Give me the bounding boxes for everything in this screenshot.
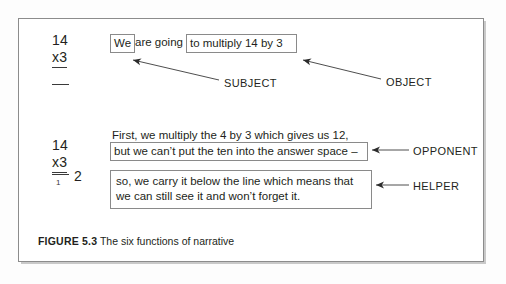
helper-line-1: so, we carry it below the line which mea… [116, 174, 366, 189]
sum-bottom-answer: 2 [74, 169, 82, 183]
label-object: OBJECT [386, 76, 432, 89]
linking-clause: are going [133, 34, 185, 51]
object-clause-box: to multiply 14 by 3 [186, 34, 297, 53]
sum-bottom-answer-rule [52, 174, 69, 175]
sum-top-multiplier: x3 [52, 49, 67, 68]
helper-line-2: we can still see it and won’t forget it. [116, 189, 366, 204]
sum-bottom-multiplicand: 14 [52, 137, 68, 154]
opponent-clause-box: but we can’t put the ten into the answer… [110, 142, 368, 161]
label-opponent: OPPONENT [413, 145, 478, 158]
figure-caption: FIGURE 5.3 The six functions of narrativ… [38, 235, 234, 248]
sum-bottom-multiplier: x3 [52, 154, 67, 173]
figure-page: 14 x3 14 x3 2 1 We are going to multiply… [0, 0, 506, 284]
helper-clause-box: so, we carry it below the line which mea… [110, 170, 372, 209]
sum-top: 14 x3 [52, 32, 68, 68]
label-helper: HELPER [413, 180, 459, 193]
sum-top-multiplicand: 14 [52, 32, 68, 49]
figure-caption-label: FIGURE 5.3 [38, 235, 97, 247]
sum-top-answer-rule [52, 84, 69, 85]
sum-bottom-carry: 1 [56, 179, 60, 187]
subject-clause-box: We [110, 34, 135, 53]
label-subject: SUBJECT [224, 77, 277, 90]
figure-caption-text: The six functions of narrative [100, 235, 234, 247]
sum-bottom: 14 x3 [52, 137, 68, 173]
